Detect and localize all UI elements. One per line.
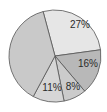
slice-label: 16% [78, 58, 98, 69]
pie-chart: 27%16%8%11% [0, 0, 107, 112]
slice-label: 11% [42, 82, 61, 93]
slice-label: 8% [66, 81, 81, 92]
slice-label: 27% [70, 19, 90, 30]
